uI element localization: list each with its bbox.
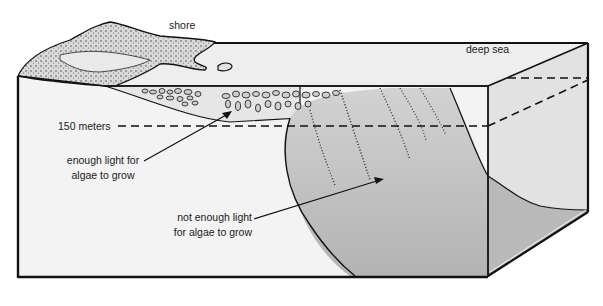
- label-150-meters: 150 meters: [58, 119, 111, 134]
- label-deep-sea: deep sea: [466, 42, 509, 57]
- label-enough-light-line1: enough light for: [58, 153, 148, 168]
- label-enough-light: enough light for algae to grow: [58, 153, 148, 183]
- label-not-enough-light-line2: for algae to grow: [160, 225, 252, 240]
- label-shore: shore: [169, 18, 195, 33]
- label-not-enough-light-line1: not enough light: [160, 210, 252, 225]
- label-enough-light-line2: algae to grow: [58, 168, 148, 183]
- ocean-light-diagram: shore deep sea 150 meters enough light f…: [0, 0, 603, 306]
- label-not-enough-light: not enough light for algae to grow: [160, 210, 252, 240]
